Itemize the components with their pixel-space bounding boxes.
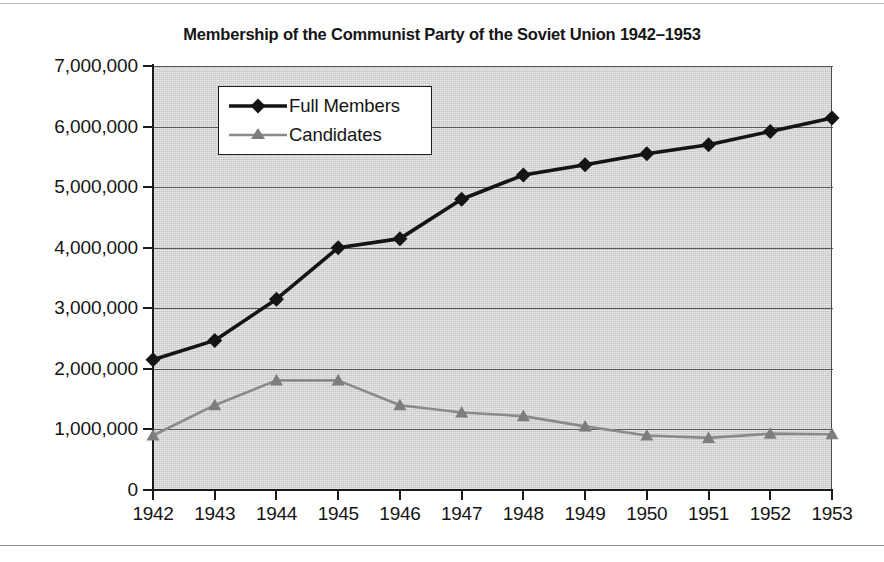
y-axis-tick — [143, 126, 154, 128]
chart-figure: Membership of the Communist Party of the… — [0, 0, 884, 562]
x-axis-tick — [214, 490, 216, 500]
y-axis-tick-label: 2,000,000 — [54, 358, 138, 380]
y-axis-tick — [143, 186, 154, 188]
x-axis-tick-label: 1946 — [379, 503, 420, 525]
x-axis-tick-label: 1950 — [626, 503, 667, 525]
y-axis-tick-label: 4,000,000 — [54, 237, 138, 259]
x-axis-tick-label: 1951 — [688, 503, 729, 525]
chart-legend: Full Members Candidates — [218, 86, 432, 155]
y-axis-tick-label: 7,000,000 — [54, 55, 138, 77]
legend-label-candidates: Candidates — [289, 124, 382, 146]
x-axis-tick-label: 1953 — [811, 503, 852, 525]
x-axis-line — [152, 489, 833, 491]
gridline — [154, 369, 833, 370]
y-axis-tick — [143, 428, 154, 430]
legend-label-full-members: Full Members — [289, 95, 400, 117]
y-axis-tick-label: 6,000,000 — [54, 116, 138, 138]
x-axis-tick — [399, 490, 401, 500]
x-axis-tick — [152, 490, 154, 500]
y-axis-tick-label: 0 — [128, 479, 138, 501]
x-axis-tick — [708, 490, 710, 500]
x-axis-tick — [646, 490, 648, 500]
gridline — [154, 308, 833, 309]
x-axis-tick-label: 1945 — [318, 503, 359, 525]
legend-entry-candidates: Candidates — [219, 120, 433, 150]
legend-swatch-candidates — [227, 122, 289, 148]
gridline — [154, 429, 833, 430]
legend-entry-full-members: Full Members — [219, 91, 433, 121]
x-axis-tick — [769, 490, 771, 500]
x-axis-tick — [831, 490, 833, 500]
y-axis-tick — [143, 247, 154, 249]
x-axis-tick — [275, 490, 277, 500]
y-axis-tick-label: 3,000,000 — [54, 297, 138, 319]
x-axis-tick-label: 1952 — [750, 503, 791, 525]
x-axis-tick-label: 1947 — [441, 503, 482, 525]
gridline — [154, 187, 833, 188]
legend-swatch-full-members — [227, 93, 289, 119]
gridline — [154, 66, 833, 67]
chart-title: Membership of the Communist Party of the… — [0, 25, 884, 44]
y-axis-tick — [143, 307, 154, 309]
x-axis-tick-label: 1944 — [256, 503, 297, 525]
y-axis-tick — [143, 65, 154, 67]
y-axis-tick — [143, 368, 154, 370]
x-axis-tick — [461, 490, 463, 500]
x-axis-tick — [337, 490, 339, 500]
x-axis-tick-label: 1942 — [132, 503, 173, 525]
x-axis-tick — [522, 490, 524, 500]
y-axis-tick-label: 5,000,000 — [54, 176, 138, 198]
x-axis-tick-label: 1949 — [565, 503, 606, 525]
x-axis-tick-label: 1943 — [194, 503, 235, 525]
x-axis-tick-label: 1948 — [503, 503, 544, 525]
x-axis-tick — [584, 490, 586, 500]
gridline — [154, 248, 833, 249]
y-axis-tick-label: 1,000,000 — [54, 418, 138, 440]
